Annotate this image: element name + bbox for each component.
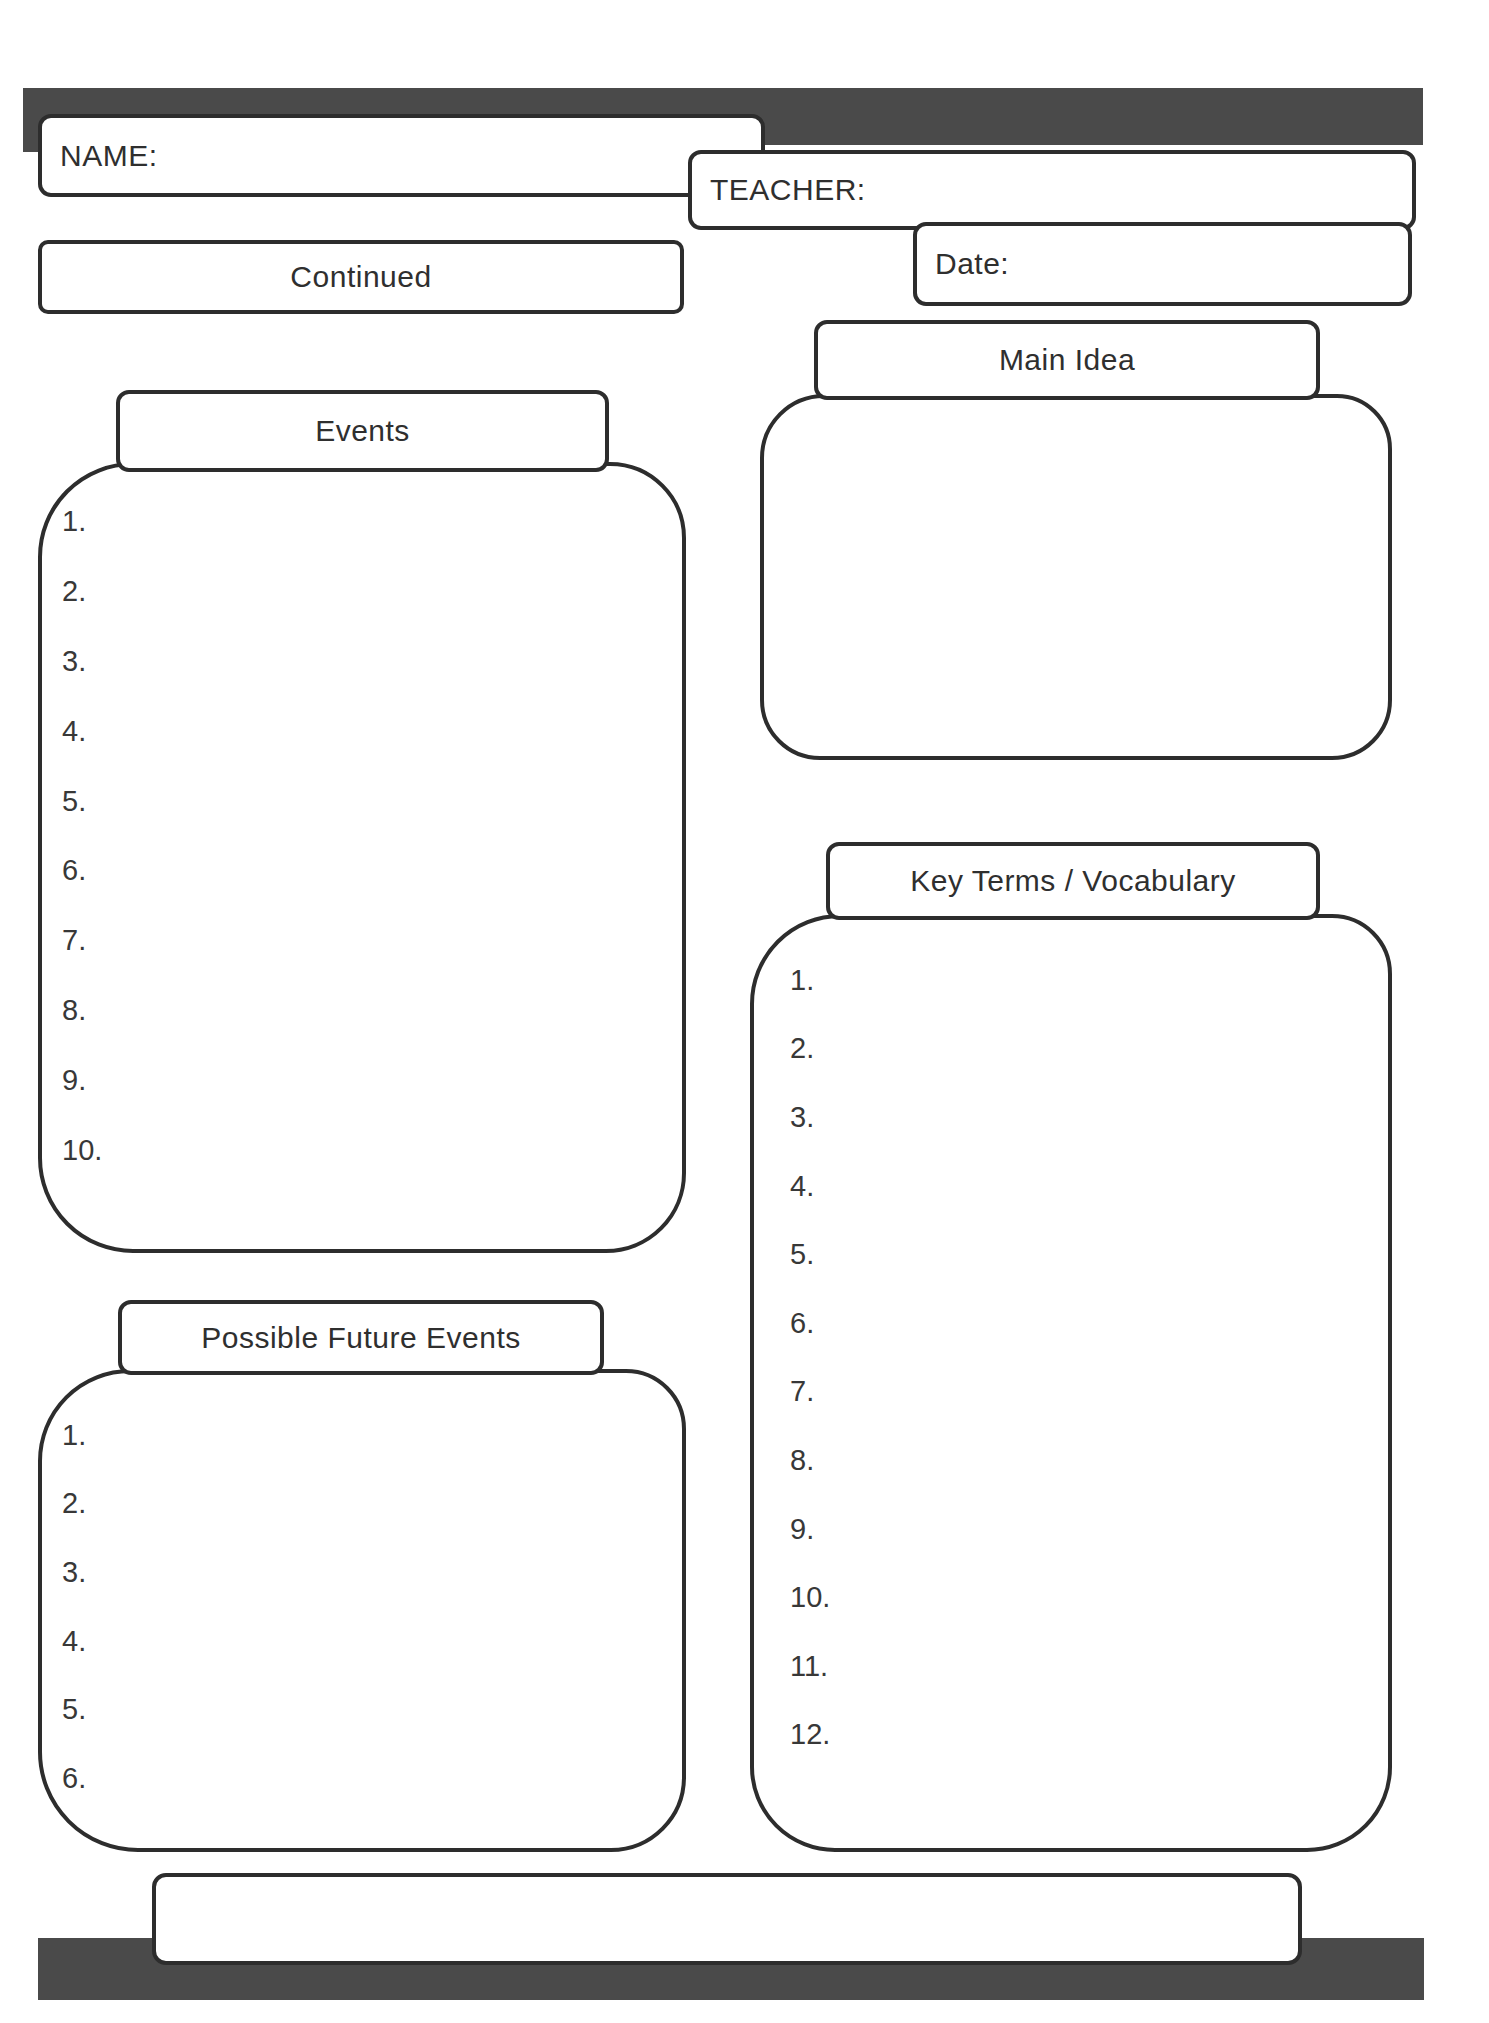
list-number: 6. [790, 1289, 1050, 1358]
list-number: 6. [62, 836, 322, 906]
list-number: 9. [790, 1495, 1050, 1564]
key-terms-tab: Key Terms / Vocabulary [826, 842, 1320, 920]
list-number: 3. [790, 1083, 1050, 1152]
list-number: 2. [790, 1015, 1050, 1084]
events-tab: Events [116, 390, 609, 472]
list-number: 7. [62, 906, 322, 976]
list-number: 10. [790, 1563, 1050, 1632]
list-number: 4. [790, 1152, 1050, 1221]
list-number: 3. [62, 1538, 322, 1607]
list-number: 5. [790, 1220, 1050, 1289]
list-number: 10. [62, 1115, 322, 1185]
date-field[interactable]: Date: [913, 222, 1412, 306]
list-number: 11. [790, 1632, 1050, 1701]
name-label: NAME: [42, 139, 158, 173]
key-terms-list: 1.2.3.4.5.6.7.8.9.10.11.12. [790, 946, 1050, 1769]
name-field[interactable]: NAME: [38, 114, 765, 197]
list-number: 9. [62, 1045, 322, 1115]
continued-banner: Continued [38, 240, 684, 314]
list-number: 3. [62, 627, 322, 697]
list-number: 1. [62, 1401, 322, 1470]
worksheet-page: { "page": { "banner_color": "#4a4a4a", "… [0, 0, 1489, 2023]
events-list: 1.2.3.4.5.6.7.8.9.10. [62, 487, 322, 1185]
possible-future-events-list: 1.2.3.4.5.6. [62, 1401, 322, 1813]
continued-label: Continued [290, 260, 431, 294]
main-idea-title: Main Idea [999, 343, 1135, 377]
date-label: Date: [917, 247, 1009, 281]
list-number: 8. [790, 1426, 1050, 1495]
list-number: 1. [62, 487, 322, 557]
key-terms-title: Key Terms / Vocabulary [910, 864, 1236, 898]
list-number: 6. [62, 1744, 322, 1813]
main-idea-box[interactable] [760, 394, 1392, 760]
bottom-notes-box[interactable] [152, 1873, 1302, 1965]
teacher-field[interactable]: TEACHER: [688, 150, 1416, 230]
list-number: 7. [790, 1358, 1050, 1427]
list-number: 2. [62, 557, 322, 627]
list-number: 4. [62, 1607, 322, 1676]
list-number: 5. [62, 1675, 322, 1744]
list-number: 2. [62, 1470, 322, 1539]
list-number: 1. [790, 946, 1050, 1015]
possible-future-events-tab: Possible Future Events [118, 1300, 604, 1375]
list-number: 12. [790, 1701, 1050, 1770]
teacher-label: TEACHER: [692, 173, 866, 207]
list-number: 4. [62, 696, 322, 766]
list-number: 8. [62, 976, 322, 1046]
list-number: 5. [62, 766, 322, 836]
main-idea-tab: Main Idea [814, 320, 1320, 400]
possible-future-events-title: Possible Future Events [201, 1321, 520, 1355]
events-title: Events [315, 414, 410, 448]
